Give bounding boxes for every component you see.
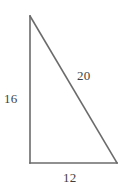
triangle-figure: 16 20 12 [0,0,124,189]
triangle-drawing [0,0,124,189]
side-label-vertical-leg: 16 [4,92,17,105]
side-label-horizontal-leg: 12 [63,171,76,184]
side-label-hypotenuse: 20 [77,69,90,82]
triangle-side-hypotenuse [30,16,117,163]
